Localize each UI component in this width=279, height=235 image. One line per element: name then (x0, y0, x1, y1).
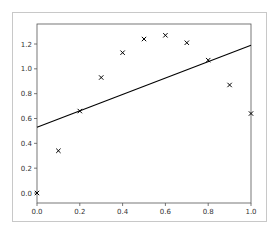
axes-box (37, 24, 251, 203)
y-tick-label: 1.0 (21, 65, 32, 73)
x-marker-icon (163, 33, 167, 37)
y-tick-label: 0.0 (21, 190, 32, 198)
y-tick-label: 0.6 (21, 115, 33, 123)
fit-line (37, 45, 251, 127)
x-tick-label: 0.0 (31, 208, 42, 216)
y-tick-label: 0.2 (21, 165, 32, 173)
x-tick-label: 0.6 (160, 208, 172, 216)
scatter-chart: 0.00.20.40.60.81.00.00.20.40.60.81.01.2 (0, 0, 279, 235)
x-tick-label: 0.4 (117, 208, 129, 216)
y-tick-label: 0.4 (21, 140, 33, 148)
x-marker-icon (120, 50, 124, 54)
x-tick-label: 0.2 (74, 208, 85, 216)
x-marker-icon (99, 75, 103, 79)
x-marker-icon (142, 37, 146, 41)
x-marker-icon (185, 41, 189, 45)
x-tick-label: 0.8 (203, 208, 214, 216)
x-tick-label: 1.0 (245, 208, 256, 216)
x-marker-icon (227, 83, 231, 87)
y-tick-label: 1.2 (21, 41, 32, 49)
x-marker-icon (56, 149, 60, 153)
y-tick-label: 0.8 (21, 90, 32, 98)
